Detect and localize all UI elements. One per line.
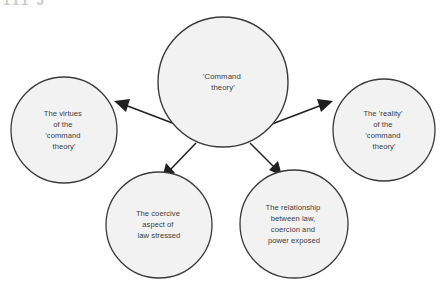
node-virtues[interactable]: The virtues of the 'command theory': [11, 77, 117, 183]
node-coercive-aspect[interactable]: The coercive aspect of law stressed: [106, 172, 212, 278]
node-shape: [158, 17, 288, 147]
diagram-canvas: 111 J The vir: [0, 0, 445, 287]
arrowhead-icon: [317, 99, 333, 112]
concept-map-diagram: The virtues of the 'command theory' The …: [0, 0, 445, 287]
arrowhead-icon: [114, 99, 130, 112]
edge-hub-to-relationship: [250, 143, 282, 176]
edge-line: [250, 143, 274, 167]
node-label: The coercive aspect of law stressed: [136, 209, 182, 240]
edge-line: [170, 143, 196, 170]
node-command-theory-hub[interactable]: 'Command theory': [158, 17, 288, 147]
node-reality[interactable]: The 'reality' of the 'command theory': [333, 79, 435, 181]
node-relationship[interactable]: The relationship between law, coercion a…: [240, 170, 348, 278]
